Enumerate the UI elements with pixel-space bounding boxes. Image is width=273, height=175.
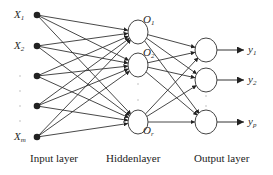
hidden-node-label: Or <box>143 125 154 140</box>
input-node <box>34 43 41 50</box>
input-nodes <box>34 12 41 141</box>
hidden-nodes <box>128 20 148 134</box>
input-node <box>34 12 41 19</box>
input-node <box>34 134 41 141</box>
output-node <box>195 68 217 92</box>
output-arrows <box>217 50 244 122</box>
output-layer-title: Output layer <box>194 152 249 164</box>
input-layer-title: Input layer <box>30 152 78 164</box>
output-nodes <box>195 38 217 134</box>
input-node-label: X2 <box>14 40 24 55</box>
hidden-layer-title: Hiddenlayer <box>106 152 160 164</box>
output-node-label: yp <box>248 116 256 131</box>
hidden-node-label: O1 <box>143 14 154 29</box>
hidden-node-label: O2 <box>143 47 154 62</box>
input-node-label: X1 <box>14 9 24 24</box>
output-node <box>195 110 217 134</box>
output-node <box>195 38 217 62</box>
input-node <box>34 103 41 110</box>
network-diagram <box>0 0 273 175</box>
input-node-label: Xm <box>14 131 26 146</box>
input-hidden-connections <box>37 15 131 137</box>
input-node <box>34 73 41 80</box>
output-node-label: y2 <box>248 74 256 89</box>
output-node-label: y1 <box>248 44 256 59</box>
